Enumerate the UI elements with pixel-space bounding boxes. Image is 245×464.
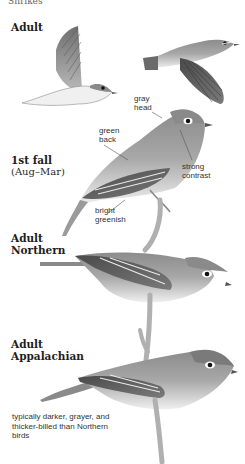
adult-flying-bird-left [22,26,118,105]
label-strong-contrast: strong contrast [182,162,210,180]
heading-adult-northern: Adult [11,232,43,244]
heading-northern: Northern [11,244,65,256]
adult-flying-bird-right [143,40,240,104]
adult-northern-bird [40,252,232,360]
heading-appalachian: Appalachian [11,350,84,362]
label-gray-head: gray head [134,94,152,112]
heading-adult: Adult [11,21,43,33]
first-fall-season: (Aug–Mar) [11,166,65,178]
appalachian-note: typically darker, grayer, and thicker-bi… [12,412,112,441]
label-bright-greenish: bright greenish [95,206,126,224]
label-green-back: green back [99,126,119,144]
heading-first-fall: 1st fall [11,154,52,166]
heading-adult-appalachian: Adult [11,338,43,350]
